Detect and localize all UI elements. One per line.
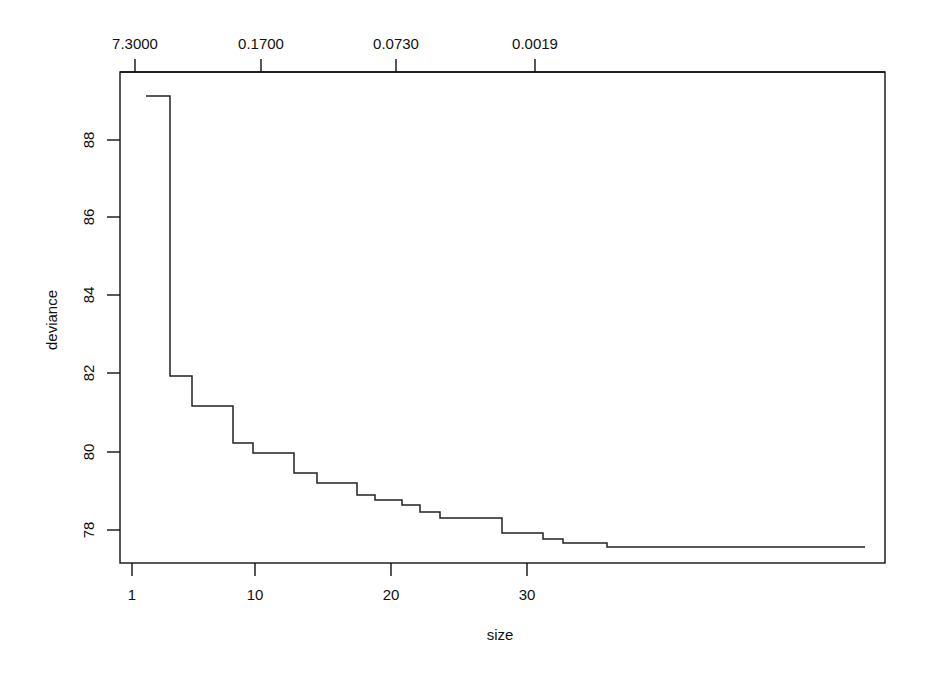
y-axis-tick-label: 80: [80, 444, 97, 461]
y-axis-tick-label: 86: [80, 209, 97, 226]
x-axis-tick-label: 20: [383, 586, 400, 603]
x-axis-tick-label: 10: [247, 586, 264, 603]
y-axis-tick-label: 82: [80, 365, 97, 382]
top-axis-tick-label: 0.0730: [373, 35, 419, 52]
top-axis-tick-label: 0.1700: [238, 35, 284, 52]
plot-frame: [120, 72, 885, 563]
y-axis: 88 86 84 82 80 78: [80, 132, 120, 539]
y-axis-tick-label: 84: [80, 287, 97, 304]
y-axis-tick-label: 88: [80, 132, 97, 149]
deviance-vs-size-plot: 7.3000 0.1700 0.0730 0.0019 88 86 84 82 …: [0, 0, 935, 677]
x-axis-tick-label: 30: [519, 586, 536, 603]
y-axis-tick-label: 78: [80, 522, 97, 539]
deviance-step-curve: [146, 96, 865, 547]
x-axis-tick-label: 1: [128, 586, 136, 603]
x-axis: 1 10 20 30: [128, 563, 536, 603]
y-axis-title: deviance: [43, 290, 60, 350]
top-axis-tick-label: 7.3000: [112, 35, 158, 52]
top-axis: 7.3000 0.1700 0.0730 0.0019: [112, 35, 885, 72]
x-axis-title: size: [487, 626, 514, 643]
top-axis-tick-label: 0.0019: [512, 35, 558, 52]
plot-svg: 7.3000 0.1700 0.0730 0.0019 88 86 84 82 …: [0, 0, 935, 677]
